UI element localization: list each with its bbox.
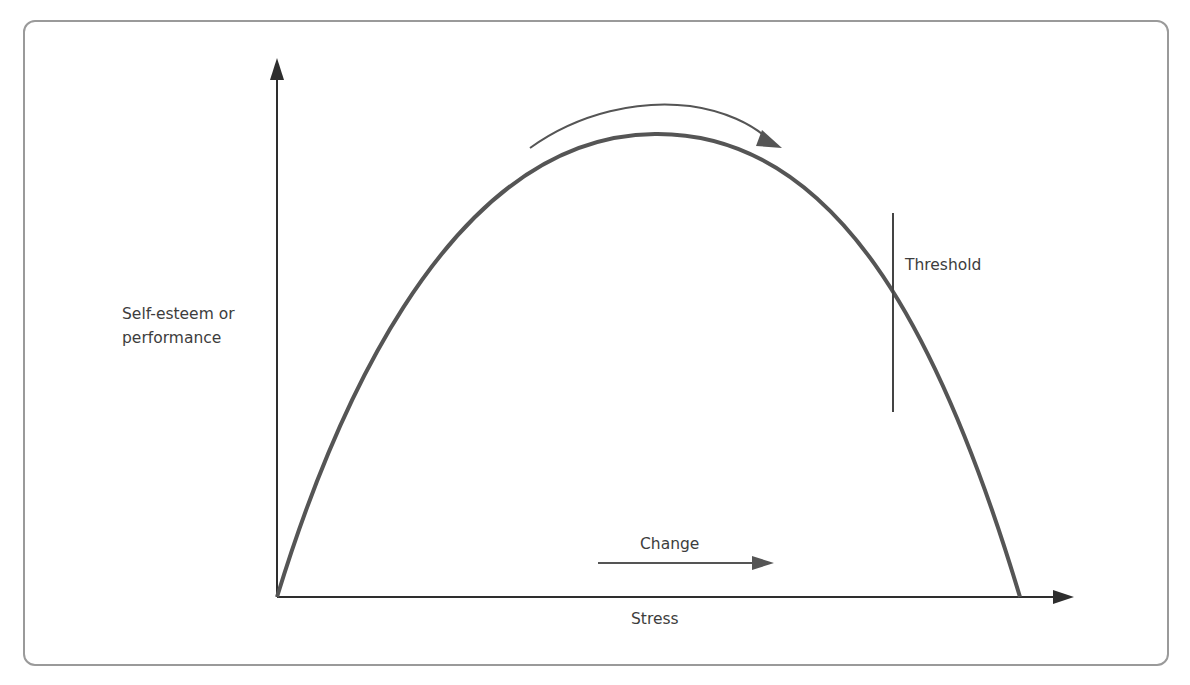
- threshold-label: Threshold: [905, 253, 981, 277]
- x-axis: [277, 590, 1074, 604]
- y-axis-label-line1: Self-esteem or: [122, 302, 235, 326]
- y-axis-label: Self-esteem or performance: [122, 302, 235, 350]
- performance-curve: [277, 134, 1020, 597]
- change-label: Change: [640, 532, 699, 556]
- curved-direction-arrow: [530, 105, 782, 148]
- x-axis-label: Stress: [631, 607, 679, 631]
- change-arrow-head-icon: [752, 556, 774, 570]
- change-arrow: [598, 556, 774, 570]
- y-axis-label-line2: performance: [122, 326, 235, 350]
- y-axis-arrow-icon: [270, 58, 284, 80]
- y-axis: [270, 58, 284, 597]
- x-axis-arrow-icon: [1053, 590, 1074, 604]
